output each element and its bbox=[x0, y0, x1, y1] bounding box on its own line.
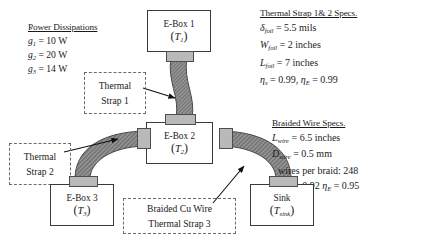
ebox2-temperature: (T2) bbox=[171, 142, 188, 157]
callout-strap3-line1: Braided Cu Wire bbox=[147, 201, 212, 216]
tab-ebox1-bottom bbox=[166, 51, 194, 62]
power-heading: Power Dissipations bbox=[28, 22, 97, 32]
component-box-ebox2[interactable]: E-Box 2 (T2) bbox=[146, 122, 213, 164]
strap-spec-line-2: Wfoil = 2 inches bbox=[260, 37, 357, 55]
tab-ebox2-top bbox=[165, 114, 196, 125]
thermal-strap-1-band bbox=[170, 58, 193, 118]
power-item-1: g1 = 10 W bbox=[28, 34, 97, 48]
callout-strap1-line2: Strap 1 bbox=[101, 93, 128, 108]
sink-temperature: (Tsink) bbox=[270, 204, 294, 219]
strap-spec-line-1: δfoil = 5.5 mils bbox=[260, 20, 357, 38]
tab-sink-top bbox=[269, 176, 298, 187]
thermal-strap-2-band bbox=[75, 131, 145, 179]
strap-spec-line-3: Lfoil = 7 inches bbox=[260, 55, 357, 73]
callout-strap3-line2: Thermal Strap 3 bbox=[148, 216, 210, 231]
tab-ebox3-top bbox=[69, 176, 98, 187]
ebox3-label: E-Box 3 bbox=[66, 192, 97, 205]
wire-spec-line-1: Lwire = 6.5 inches bbox=[272, 130, 359, 147]
power-dissipations-block: Power Dissipations g1 = 10 W g2 = 20 W g… bbox=[28, 22, 97, 76]
diagram-canvas: E-Box 1 (T1) E-Box 2 (T2) E-Box 3 (T3) S… bbox=[0, 0, 422, 244]
wire-spec-line-2: Dwire = 0.5 mm bbox=[272, 146, 359, 163]
wire-specs-heading: Braided Wire Specs. bbox=[272, 118, 359, 128]
tab-ebox2-left bbox=[137, 128, 151, 149]
ebox1-label: E-Box 1 bbox=[163, 18, 194, 31]
thermal-strap-specs-block: Thermal Strap 1& 2 Specs. δfoil = 5.5 mi… bbox=[260, 8, 357, 90]
power-item-2: g2 = 20 W bbox=[28, 48, 97, 62]
callout-thermal-strap-2[interactable]: Thermal Strap 2 bbox=[9, 143, 71, 185]
component-box-ebox3[interactable]: E-Box 3 (T3) bbox=[50, 184, 114, 226]
callout-strap2-line1: Thermal bbox=[24, 149, 57, 164]
strap-specs-heading: Thermal Strap 1& 2 Specs. bbox=[260, 8, 357, 18]
leader-line-strap-1 bbox=[143, 88, 175, 98]
ebox3-temperature: (T3) bbox=[73, 204, 90, 219]
callout-thermal-strap-3[interactable]: Braided Cu Wire Thermal Strap 3 bbox=[123, 198, 236, 234]
callout-strap2-line2: Strap 2 bbox=[26, 164, 53, 179]
strap-spec-efficiency: ηs = 0.99, ηE = 0.99 bbox=[260, 72, 357, 90]
ebox1-temperature: (T1) bbox=[170, 30, 187, 45]
component-box-ebox1[interactable]: E-Box 1 (T1) bbox=[147, 10, 211, 52]
callout-strap1-line1: Thermal bbox=[99, 78, 132, 93]
tab-ebox2-right bbox=[219, 128, 233, 149]
callout-thermal-strap-1[interactable]: Thermal Strap 1 bbox=[84, 72, 146, 114]
component-box-sink[interactable]: Sink (Tsink) bbox=[250, 184, 314, 226]
sink-label: Sink bbox=[273, 192, 290, 205]
ebox2-label: E-Box 2 bbox=[164, 130, 195, 143]
